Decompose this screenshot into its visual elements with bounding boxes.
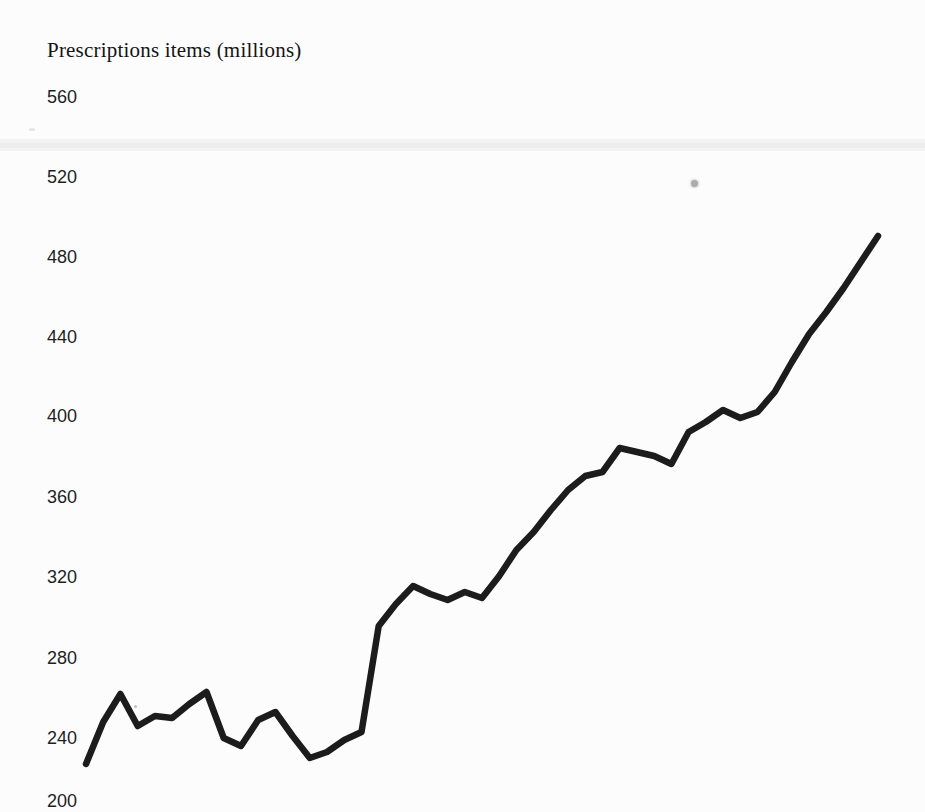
prescriptions-line (86, 236, 878, 764)
line-plot (0, 0, 925, 812)
chart: Prescriptions items (millions) 560 520 4… (0, 0, 925, 812)
